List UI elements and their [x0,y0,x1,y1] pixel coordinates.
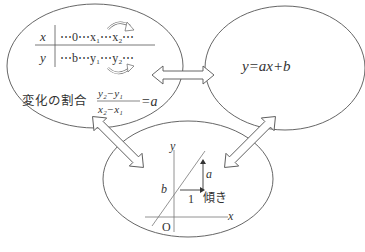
rate-result: =a [141,94,157,109]
table-x-cells: ⋯0⋯x₁⋯x₂⋯ [60,30,134,44]
line-y-ax-b [152,151,205,226]
graph-y-label: y [169,139,176,153]
value-table: x ⋯0⋯x₁⋯x₂⋯ y ⋯b⋯y₁⋯y₂⋯ [35,22,155,73]
table-x-label: x [39,29,46,44]
rate-numerator: y₂−y₁ [97,87,123,99]
rate-denominator: x₂−x₁ [97,103,123,115]
graph-run-1: 1 [188,192,194,206]
equation-text: y=ax+b [240,58,291,74]
linear-graph: y x O b 1 a 傾き [145,139,234,234]
graph-intercept-b: b [161,182,167,196]
double-arrow-equation-graph-icon [218,110,282,174]
graph-x-label: x [227,209,234,223]
table-y-cells: ⋯b⋯y₁⋯y₂⋯ [60,51,134,65]
graph-rise-a: a [206,167,212,181]
rate-label: 変化の割合 [22,93,87,108]
graph-slope-label: 傾き [203,191,227,205]
graph-origin: O [162,220,171,234]
table-y-label: y [38,50,46,65]
diagram-canvas: x ⋯0⋯x₁⋯x₂⋯ y ⋯b⋯y₁⋯y₂⋯ 変化の割合 y₂−y₁ x₂−x… [0,0,365,252]
table-node-ellipse [7,4,183,128]
rate-of-change: 変化の割合 y₂−y₁ x₂−x₁ =a [22,87,157,115]
